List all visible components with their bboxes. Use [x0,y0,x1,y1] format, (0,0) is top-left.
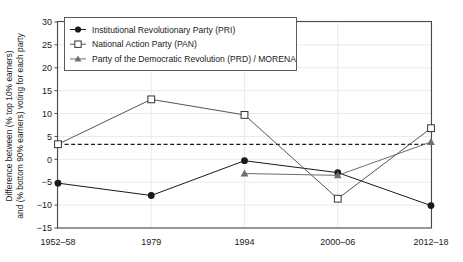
filled-circle-icon [75,26,81,32]
y-axis-tick-label: 15 [42,86,52,96]
data-point-square[interactable] [241,112,248,119]
y-axis-title-line1: Difference between (% top 10% earners) [4,50,14,201]
y-axis-tick-label: −15 [37,223,52,233]
legend-label-pri: Institutional Revolutionary Party (PRI) [92,25,235,35]
y-axis-tick-label: −10 [37,200,52,210]
data-point-circle[interactable] [428,202,435,209]
x-axis-tick-label: 1952–58 [40,237,75,247]
y-axis-tick-label: 0 [47,155,52,165]
y-axis-tick-label: 10 [42,109,52,119]
x-axis-tick-label: 2012–18 [413,237,448,247]
y-axis-tick-label: 20 [42,63,52,73]
y-axis-tick-label: 25 [42,40,52,50]
legend: Institutional Revolutionary Party (PRI) … [65,18,297,71]
data-point-square[interactable] [428,125,435,132]
open-square-icon [75,41,81,47]
data-point-square[interactable] [148,96,155,103]
y-axis-ticks: 302520151050−5−10−15 [37,17,58,233]
data-point-circle[interactable] [241,157,248,164]
data-point-circle[interactable] [55,180,62,187]
legend-entry-pri[interactable]: Institutional Revolutionary Party (PRI) [70,25,235,35]
data-point-square[interactable] [55,141,62,148]
legend-label-prd: Party of the Democratic Revolution (PRD)… [92,54,296,64]
x-axis-tick-label: 2000–06 [320,237,355,247]
y-axis-tick-label: 5 [47,132,52,142]
chart-container: 302520151050−5−10−15 1952–58197919942000… [0,0,463,262]
y-axis-tick-label: −5 [42,177,52,187]
x-axis-tick-label: 1979 [141,237,161,247]
data-point-square[interactable] [334,195,341,202]
data-point-circle[interactable] [148,192,155,199]
y-axis-title-line2: and (% bottom 90% earners) voting for ea… [15,33,25,219]
legend-entry-prd[interactable]: Party of the Democratic Revolution (PRD)… [70,54,296,64]
legend-label-pan: National Action Party (PAN) [92,39,197,49]
line-chart: 302520151050−5−10−15 1952–58197919942000… [0,0,463,262]
x-axis-ticks: 1952–58197919942000–062012–18 [40,237,448,247]
y-axis-tick-label: 30 [42,17,52,27]
y-axis-title: Difference between (% top 10% earners) a… [4,33,25,219]
data-point-triangle[interactable] [427,138,435,145]
x-axis-tick-label: 1994 [234,237,254,247]
